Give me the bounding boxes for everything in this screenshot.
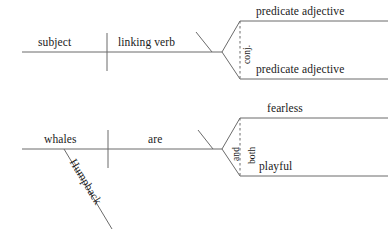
- label-are: are: [148, 134, 162, 146]
- label-playful: playful: [259, 161, 292, 173]
- label-whales: whales: [44, 134, 77, 146]
- label-conj-top: conj.: [243, 45, 253, 64]
- fork-upper-arm-bottom: [222, 118, 240, 149]
- sentence-diagram-canvas: subject linking verb conj. predicate adj…: [0, 0, 388, 246]
- complement-slant-bottom: [198, 130, 213, 149]
- fork-lower-arm-top: [222, 52, 240, 79]
- label-subject: subject: [38, 37, 71, 49]
- label-predicate-adjective-1: predicate adjective: [256, 6, 344, 18]
- label-fearless: fearless: [267, 103, 303, 115]
- fork-upper-arm-top: [222, 21, 240, 52]
- complement-slant-top: [196, 32, 212, 52]
- label-predicate-adjective-2: predicate adjective: [256, 64, 344, 76]
- label-both: both: [248, 147, 258, 164]
- label-linking-verb: linking verb: [118, 37, 175, 49]
- label-and: and: [232, 147, 242, 161]
